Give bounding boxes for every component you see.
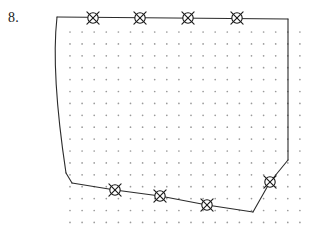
grid-dot bbox=[142, 198, 144, 200]
grid-dot bbox=[202, 43, 204, 45]
grid-dot bbox=[166, 186, 168, 188]
grid-dot bbox=[275, 138, 277, 140]
grid-dot bbox=[93, 103, 95, 105]
grid-dot bbox=[93, 162, 95, 164]
boundary-markers bbox=[87, 12, 276, 211]
grid-dot bbox=[178, 31, 180, 33]
grid-dot bbox=[263, 138, 265, 140]
grid-dot bbox=[275, 222, 277, 224]
grid-dot bbox=[154, 43, 156, 45]
grid-dot bbox=[239, 103, 241, 105]
grid-dot bbox=[214, 138, 216, 140]
grid-dot bbox=[299, 67, 301, 69]
grid-dot bbox=[130, 138, 132, 140]
grid-dot bbox=[226, 150, 228, 152]
grid-dot bbox=[202, 91, 204, 93]
grid-dot bbox=[154, 150, 156, 152]
grid-dot bbox=[118, 150, 120, 152]
grid-dot bbox=[69, 79, 71, 81]
grid-dot bbox=[239, 43, 241, 45]
grid-dot bbox=[190, 162, 192, 164]
grid-dot bbox=[130, 114, 132, 116]
grid-dot bbox=[251, 43, 253, 45]
grid-dot bbox=[69, 126, 71, 128]
grid-dot bbox=[226, 103, 228, 105]
grid-dot bbox=[118, 126, 120, 128]
grid-dot bbox=[202, 103, 204, 105]
grid-dot bbox=[81, 55, 83, 57]
figure-canvas bbox=[0, 0, 312, 245]
grid-dot bbox=[251, 162, 253, 164]
grid-dot bbox=[81, 150, 83, 152]
grid-dot bbox=[299, 43, 301, 45]
grid-dot bbox=[202, 55, 204, 57]
grid-dot bbox=[69, 198, 71, 200]
grid-dot bbox=[190, 103, 192, 105]
grid-dot bbox=[299, 210, 301, 212]
grid-dot bbox=[275, 162, 277, 164]
grid-dot bbox=[93, 79, 95, 81]
grid-dot bbox=[190, 174, 192, 176]
grid-dot bbox=[118, 162, 120, 164]
grid-dot bbox=[214, 103, 216, 105]
grid-dot bbox=[130, 198, 132, 200]
grid-dot bbox=[93, 150, 95, 152]
grid-dot bbox=[81, 198, 83, 200]
grid-dot bbox=[226, 210, 228, 212]
grid-dot bbox=[202, 174, 204, 176]
grid-dot bbox=[105, 198, 107, 200]
grid-dot bbox=[178, 67, 180, 69]
grid-dot bbox=[93, 126, 95, 128]
grid-dot bbox=[142, 55, 144, 57]
grid-dot bbox=[118, 138, 120, 140]
grid-dot bbox=[118, 210, 120, 212]
grid-dot bbox=[275, 103, 277, 105]
grid-dot bbox=[299, 222, 301, 224]
grid-dot bbox=[154, 174, 156, 176]
grid-dot bbox=[190, 138, 192, 140]
grid-dot bbox=[190, 126, 192, 128]
grid-dot bbox=[69, 67, 71, 69]
grid-dot bbox=[93, 222, 95, 224]
grid-dot bbox=[118, 174, 120, 176]
grid-dot bbox=[154, 222, 156, 224]
grid-dot bbox=[287, 198, 289, 200]
grid-dot bbox=[263, 210, 265, 212]
crossed-circle-icon bbox=[87, 12, 99, 24]
grid-dot bbox=[105, 126, 107, 128]
grid-dot bbox=[166, 103, 168, 105]
grid-dot bbox=[81, 79, 83, 81]
grid-dot bbox=[299, 103, 301, 105]
grid-dot bbox=[263, 103, 265, 105]
grid-dot bbox=[105, 31, 107, 33]
grid-dot bbox=[299, 79, 301, 81]
grid-dot bbox=[263, 174, 265, 176]
grid-dot bbox=[251, 126, 253, 128]
grid-dot bbox=[142, 126, 144, 128]
grid-dot bbox=[178, 55, 180, 57]
grid-dot bbox=[202, 222, 204, 224]
grid-dot bbox=[202, 126, 204, 128]
grid-dot bbox=[81, 126, 83, 128]
grid-dot bbox=[154, 79, 156, 81]
grid-dot bbox=[251, 55, 253, 57]
grid-dot bbox=[154, 31, 156, 33]
grid-dot bbox=[81, 174, 83, 176]
grid-dot bbox=[178, 174, 180, 176]
grid-dot bbox=[142, 79, 144, 81]
grid-dot bbox=[178, 43, 180, 45]
grid-dot bbox=[118, 198, 120, 200]
grid-dot bbox=[214, 79, 216, 81]
grid-dot bbox=[239, 126, 241, 128]
grid-dot bbox=[251, 31, 253, 33]
grid-dot bbox=[275, 55, 277, 57]
grid-dot bbox=[214, 150, 216, 152]
grid-dot bbox=[287, 210, 289, 212]
grid-dot bbox=[105, 67, 107, 69]
grid-dot bbox=[105, 43, 107, 45]
grid-dot bbox=[154, 91, 156, 93]
grid-dot bbox=[214, 222, 216, 224]
grid-dot bbox=[166, 55, 168, 57]
grid-dot bbox=[299, 31, 301, 33]
grid-dot bbox=[214, 114, 216, 116]
